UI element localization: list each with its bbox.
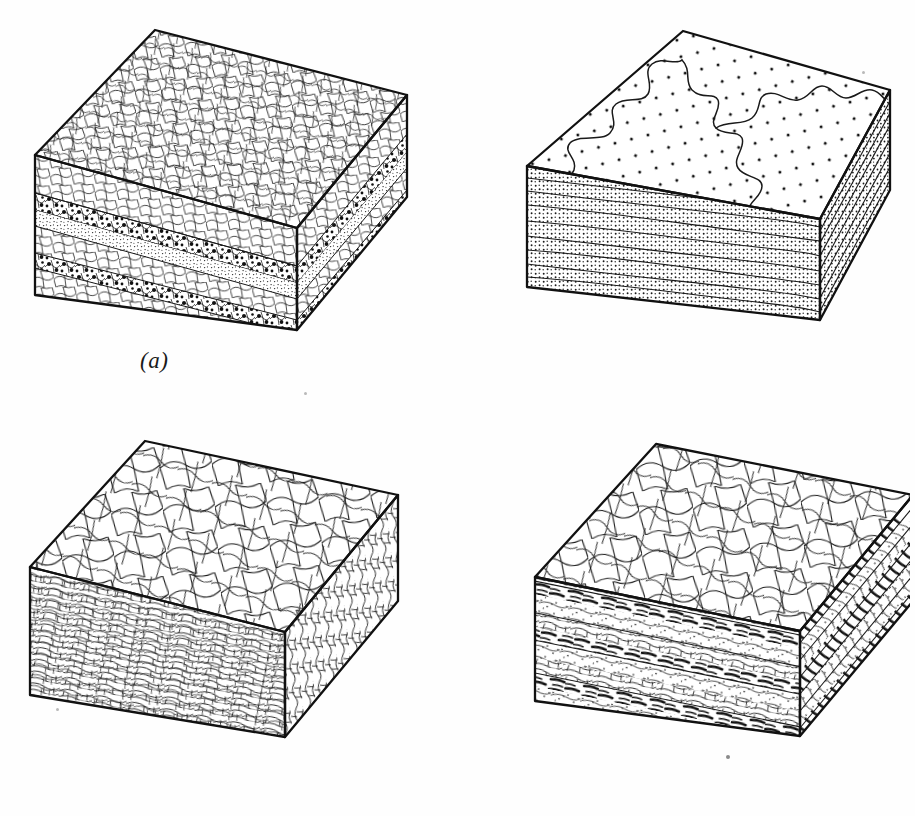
figure-root: (a): [0, 0, 915, 816]
block-diagram-b: (b): [470, 0, 910, 340]
block-d-svg: [470, 415, 910, 755]
panel-caption-a: (a): [140, 348, 168, 374]
scan-speck: [726, 755, 730, 759]
block-diagram-d: (d): [470, 415, 910, 755]
block-c-svg: [0, 415, 430, 755]
scan-speck: [862, 71, 865, 74]
scan-speck: [304, 392, 307, 395]
block-a-svg: [0, 0, 430, 340]
scan-speck: [56, 708, 59, 711]
block-diagram-c: (c): [0, 415, 430, 755]
block-b-svg: [470, 0, 910, 340]
block-diagram-a: (a): [0, 0, 430, 340]
